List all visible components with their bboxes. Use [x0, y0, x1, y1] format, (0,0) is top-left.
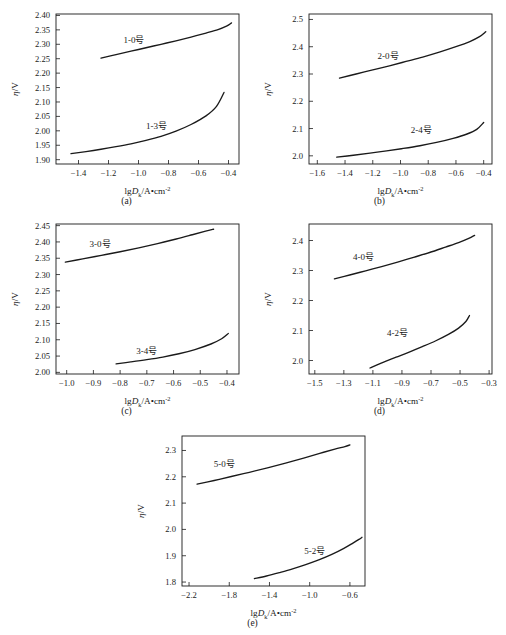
- x-tick-label: −1.0: [59, 378, 75, 388]
- plot-a: −1.4−1.2−1.0−0.8−0.6−0.41.901.952.002.05…: [0, 0, 253, 210]
- chart-panel-e: −2.2−1.8−1.4−1.0−0.61.81.92.02.12.22.3η/…: [126, 422, 379, 632]
- y-tick-label: 2.05: [35, 111, 50, 121]
- y-tick-label: 2.0: [165, 524, 176, 534]
- y-tick-label: 2.2: [165, 472, 176, 482]
- plot-c: −1.0−0.9−0.8−0.7−0.6−0.5−0.42.002.052.10…: [0, 210, 253, 420]
- chart-panel-d: −1.5−1.3−1.1−0.9−0.7−0.5−0.32.02.12.22.3…: [253, 210, 506, 420]
- panel-caption: (e): [126, 618, 379, 628]
- y-tick-label: 2.45: [35, 221, 50, 231]
- curve-label: 2-4号: [411, 125, 432, 135]
- plot-d: −1.5−1.3−1.1−0.9−0.7−0.5−0.32.02.12.22.3…: [253, 210, 506, 420]
- curve-4-2号: [370, 316, 469, 369]
- y-tick-label: 2.05: [35, 351, 50, 361]
- x-tick-label: −0.6: [342, 590, 358, 600]
- svg-text:η/V: η/V: [10, 82, 20, 96]
- x-tick-label: −1.4: [71, 168, 87, 178]
- y-tick-label: 1.90: [35, 155, 50, 165]
- y-tick-label: 1.8: [165, 577, 176, 587]
- y-tick-label: 2.2: [292, 296, 303, 306]
- curve-2-0号: [340, 32, 486, 78]
- plot-frame: [309, 224, 492, 374]
- x-tick-label: −1.0: [393, 168, 409, 178]
- x-tick-label: −0.9: [86, 378, 102, 388]
- panel-caption: (c): [0, 406, 253, 416]
- x-tick-label: −1.4: [262, 590, 278, 600]
- x-tick-label: −0.8: [112, 378, 128, 388]
- x-tick-label: −0.4: [476, 168, 492, 178]
- x-tick-label: −0.4: [221, 168, 237, 178]
- x-tick-label: −1.5: [307, 378, 323, 388]
- curve-label: 4-0号: [353, 252, 374, 262]
- chart-panel-a: −1.4−1.2−1.0−0.8−0.6−0.41.901.952.002.05…: [0, 0, 253, 210]
- y-tick-label: 2.20: [35, 302, 50, 312]
- x-tick-label: −0.8: [161, 168, 177, 178]
- y-tick-label: 2.1: [165, 498, 176, 508]
- y-tick-label: 2.10: [35, 97, 50, 107]
- curve-label: 5-0号: [214, 459, 235, 469]
- y-tick-label: 2.1: [292, 124, 303, 134]
- x-tick-label: −1.2: [365, 168, 381, 178]
- x-tick-label: −1.6: [310, 168, 326, 178]
- y-tick-label: 2.00: [35, 126, 50, 136]
- curve-1-0号: [101, 23, 232, 58]
- y-axis-label: η/V: [263, 82, 273, 96]
- y-tick-label: 2.3: [292, 266, 303, 276]
- plot-frame: [309, 14, 492, 164]
- y-tick-label: 2.30: [35, 39, 50, 49]
- y-tick-label: 2.0: [292, 356, 303, 366]
- y-tick-label: 2.2: [292, 96, 303, 106]
- panel-caption: (b): [253, 196, 506, 206]
- y-axis-label: η/V: [10, 82, 20, 96]
- x-tick-label: −0.6: [166, 378, 182, 388]
- x-tick-label: −0.7: [139, 378, 155, 388]
- y-tick-label: 2.4: [292, 42, 303, 52]
- y-tick-label: 2.4: [292, 236, 303, 246]
- plot-e: −2.2−1.8−1.4−1.0−0.61.81.92.02.12.22.3η/…: [126, 422, 379, 632]
- x-tick-label: −1.1: [365, 378, 381, 388]
- x-tick-label: −0.9: [394, 378, 410, 388]
- x-tick-label: −1.0: [302, 590, 318, 600]
- y-tick-label: 2.1: [292, 326, 303, 336]
- panel-caption: (a): [0, 196, 253, 206]
- y-tick-label: 2.10: [35, 335, 50, 345]
- x-tick-label: −1.3: [336, 378, 352, 388]
- y-tick-label: 2.35: [35, 25, 50, 35]
- curve-label: 1-0号: [124, 35, 145, 45]
- x-tick-label: −1.8: [221, 590, 237, 600]
- y-tick-label: 2.35: [35, 253, 50, 263]
- x-tick-label: −0.4: [219, 378, 235, 388]
- y-tick-label: 2.40: [35, 237, 50, 247]
- plot-frame: [182, 436, 365, 586]
- y-axis-label: η/V: [10, 292, 20, 306]
- x-tick-label: −0.6: [191, 168, 207, 178]
- y-tick-label: 1.95: [35, 140, 50, 150]
- svg-text:η/V: η/V: [263, 292, 273, 306]
- x-tick-label: −2.2: [181, 590, 197, 600]
- y-tick-label: 2.00: [35, 367, 50, 377]
- y-tick-label: 2.15: [35, 83, 50, 93]
- y-tick-label: 2.5: [292, 14, 303, 24]
- y-tick-label: 2.15: [35, 318, 50, 328]
- curve-5-2号: [254, 537, 362, 578]
- y-tick-label: 1.9: [165, 551, 176, 561]
- x-tick-label: −0.8: [420, 168, 436, 178]
- curve-label: 3-4号: [136, 346, 157, 356]
- y-tick-label: 2.3: [292, 69, 303, 79]
- y-tick-label: 2.0: [292, 151, 303, 161]
- y-tick-label: 2.25: [35, 54, 50, 64]
- panel-caption: (d): [253, 406, 506, 416]
- chart-panel-c: −1.0−0.9−0.8−0.7−0.6−0.5−0.42.002.052.10…: [0, 210, 253, 420]
- x-tick-label: −1.4: [337, 168, 353, 178]
- x-tick-label: −0.7: [423, 378, 439, 388]
- y-tick-label: 2.25: [35, 286, 50, 296]
- y-tick-label: 2.3: [165, 445, 176, 455]
- x-tick-label: −0.3: [481, 378, 497, 388]
- curve-label: 3-0号: [90, 239, 111, 249]
- plot-frame: [56, 14, 239, 164]
- x-tick-label: −1.0: [131, 168, 147, 178]
- chart-panel-b: −1.6−1.4−1.2−1.0−0.8−0.6−0.42.02.12.22.3…: [253, 0, 506, 210]
- curve-label: 1-3号: [146, 121, 167, 131]
- curve-3-0号: [65, 229, 213, 262]
- curve-label: 4-2号: [387, 328, 408, 338]
- y-tick-label: 2.40: [35, 10, 50, 20]
